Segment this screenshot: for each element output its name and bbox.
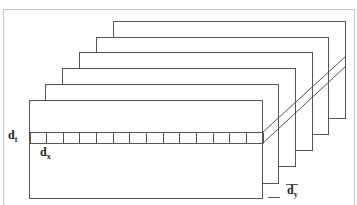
label-dt: dt bbox=[8, 128, 18, 144]
layer-1-front bbox=[30, 101, 263, 199]
layered-grid-diagram: dt dx dy bbox=[0, 0, 357, 205]
label-dy: dy bbox=[287, 183, 298, 199]
